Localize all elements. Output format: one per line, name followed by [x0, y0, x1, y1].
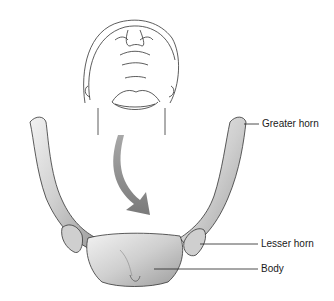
curved-arrow	[113, 135, 150, 215]
hyoid-bone-diagram: Greater horn Lesser horn Body	[0, 0, 334, 301]
head-outline	[84, 20, 179, 135]
label-greater-horn: Greater horn	[262, 118, 319, 130]
hyoid-body	[87, 233, 183, 286]
label-lesser-horn: Lesser horn	[261, 238, 314, 250]
illustration	[0, 0, 334, 301]
right-greater-horn	[180, 117, 246, 248]
label-body: Body	[261, 263, 284, 275]
